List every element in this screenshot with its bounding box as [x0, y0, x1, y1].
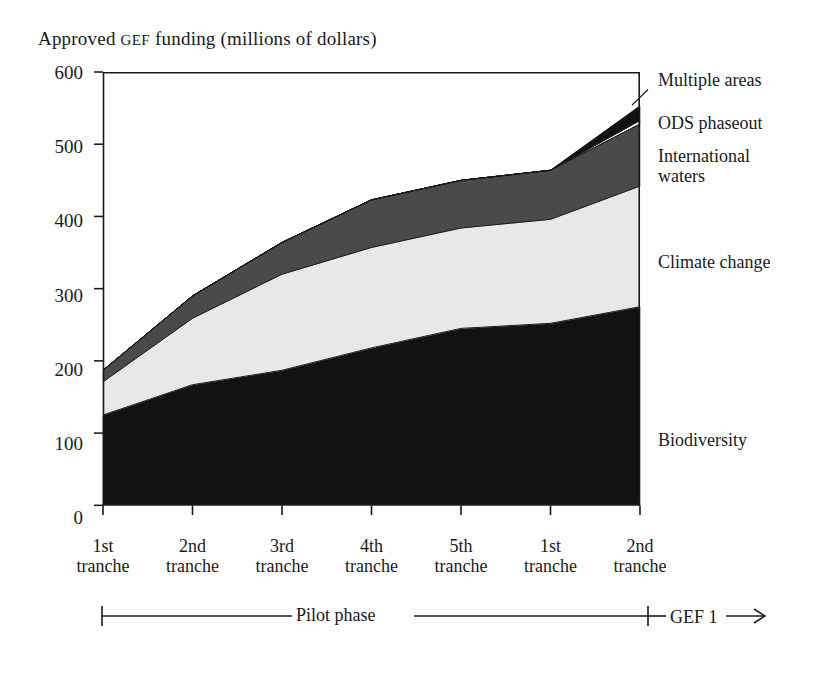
- y-tick-label-100: 100: [31, 434, 83, 453]
- series-label-ods-phaseout: ODS phaseout: [658, 113, 763, 133]
- series-label-climate-change: Climate change: [658, 252, 770, 272]
- area-series-group: [103, 106, 640, 505]
- chart-title-prefix: Approved: [38, 28, 121, 49]
- x-tick-label-7: 2ndtranche: [588, 536, 692, 576]
- y-tick-label-200: 200: [31, 360, 83, 379]
- y-axis-ticks: [94, 72, 103, 505]
- x-tick-label-5-line-1: 5th: [409, 536, 513, 556]
- gef1-label: GEF 1: [670, 608, 718, 626]
- x-tick-label-4-line-1: 4th: [320, 536, 424, 556]
- x-tick-label-1-line-1: 1st: [51, 536, 155, 556]
- x-tick-label-1: 1sttranche: [51, 536, 155, 576]
- x-tick-label-6-line-1: 1st: [499, 536, 603, 556]
- series-label-multiple-areas: Multiple areas: [658, 70, 761, 90]
- x-tick-label-3: 3rdtranche: [230, 536, 334, 576]
- series-label-biodiversity: Biodiversity: [658, 430, 747, 450]
- x-tick-label-2-line-1: 2nd: [141, 536, 245, 556]
- y-tick-label-0: 0: [31, 508, 83, 527]
- x-tick-label-1-line-2: tranche: [51, 556, 155, 576]
- x-tick-label-2: 2ndtranche: [141, 536, 245, 576]
- ods-acronym: ODS: [658, 113, 694, 133]
- x-tick-label-5-line-2: tranche: [409, 556, 513, 576]
- x-tick-label-7-line-1: 2nd: [588, 536, 692, 556]
- x-tick-label-3-line-2: tranche: [230, 556, 334, 576]
- y-tick-label-600: 600: [31, 63, 83, 82]
- x-tick-label-2-line-2: tranche: [141, 556, 245, 576]
- x-tick-label-4-line-2: tranche: [320, 556, 424, 576]
- chart-title: Approved GEF funding (millions of dollar…: [38, 28, 377, 50]
- x-tick-label-7-line-2: tranche: [588, 556, 692, 576]
- chart-title-suffix: funding (millions of dollars): [150, 28, 377, 49]
- y-tick-label-300: 300: [31, 286, 83, 305]
- x-tick-label-3-line-1: 3rd: [230, 536, 334, 556]
- y-tick-label-400: 400: [31, 211, 83, 230]
- phase-annotation-bar: Pilot phase GEF 1: [96, 600, 776, 634]
- gef1-acronym: GEF: [670, 607, 704, 627]
- chart-figure: Approved GEF funding (millions of dollar…: [0, 0, 837, 674]
- x-axis-ticks: [103, 505, 640, 515]
- x-tick-label-5: 5thtranche: [409, 536, 513, 576]
- pilot-phase-label: Pilot phase: [296, 606, 376, 624]
- x-tick-label-6: 1sttranche: [499, 536, 603, 576]
- chart-title-acronym: GEF: [121, 32, 151, 48]
- plot-area: [103, 72, 640, 517]
- ods-rest: phaseout: [694, 113, 762, 133]
- stacked-area-plot: [103, 72, 640, 517]
- gef1-number: 1: [704, 607, 718, 627]
- series-label-international-waters: International waters: [658, 146, 750, 186]
- x-tick-label-6-line-2: tranche: [499, 556, 603, 576]
- y-tick-label-500: 500: [31, 137, 83, 156]
- x-tick-label-4: 4thtranche: [320, 536, 424, 576]
